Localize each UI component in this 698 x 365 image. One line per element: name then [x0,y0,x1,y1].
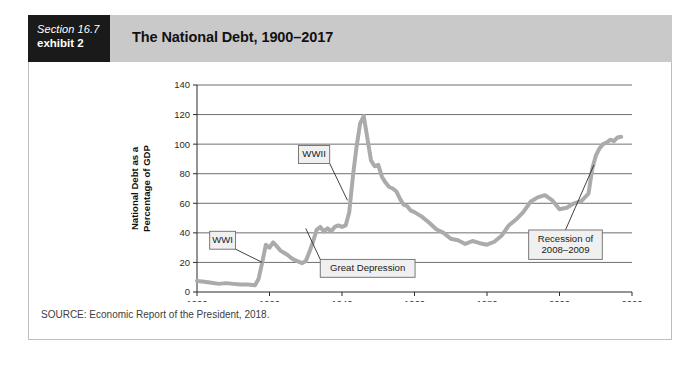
y-axis-tick-label: 0 [185,286,190,297]
y-axis-group: 020406080100120140 [174,79,197,297]
annotation-wwi: WWI [210,231,263,262]
annotation-label: 2008–2009 [541,244,589,255]
section-label: Section 16.7 [37,22,110,36]
y-axis-title-line: National Debt as a [129,146,140,230]
annotation-label: WWII [302,148,325,159]
page-title: The National Debt, 1900–2017 [132,29,333,45]
exhibit-body-panel: 020406080100120140 190019201940196019802… [28,62,672,340]
annotation-leader-line [565,165,593,230]
y-axis-tick-label: 40 [179,227,190,238]
x-axis-tick-label: 1940 [331,298,352,302]
chart-figure: 020406080100120140 190019201940196019802… [29,62,671,302]
y-axis-tick-label: 60 [179,198,190,209]
annotation-wwii: WWII [299,146,348,201]
annotation-leader-line [236,249,263,262]
y-axis-title-line: Percentage of GDP [141,144,152,232]
exhibit-card: Section 16.7 exhibit 2 The National Debt… [28,15,672,340]
x-axis-tick-label: 1980 [476,298,497,302]
annotation-label: Recession of [538,233,594,244]
exhibit-label: exhibit 2 [37,36,110,51]
y-axis-tick-label: 20 [179,257,190,268]
annotation-label: WWI [212,234,233,245]
y-axis-tick-label: 120 [174,109,190,120]
annotation-great-depression: Great Depression [306,228,415,277]
y-axis-title: National Debt as aPercentage of GDP [129,144,152,232]
x-axis-tick-label: 2000 [549,298,570,302]
exhibit-header-bar: Section 16.7 exhibit 2 The National Debt… [28,15,672,62]
y-axis-tick-label: 140 [174,79,190,90]
y-axis-tick-label: 80 [179,168,190,179]
x-axis-tick-label: 1900 [186,298,207,302]
x-axis-tick-label: 1960 [404,298,425,302]
y-axis-tick-label: 100 [174,139,190,150]
national-debt-line-chart: 020406080100120140 190019201940196019802… [29,62,671,302]
annotation-label: Great Depression [330,262,405,273]
source-note: SOURCE: Economic Report of the President… [41,309,269,320]
x-axis-tick-label: 1920 [259,298,280,302]
x-axis-tick-label: 2020 [621,298,642,302]
x-axis-group: 1900192019401960198020002020 [186,292,642,302]
annotations-group: WWIWWIIGreat DepressionRecession of2008–… [210,146,603,278]
section-tag: Section 16.7 exhibit 2 [28,15,110,62]
annotation-leader-line [330,163,348,200]
